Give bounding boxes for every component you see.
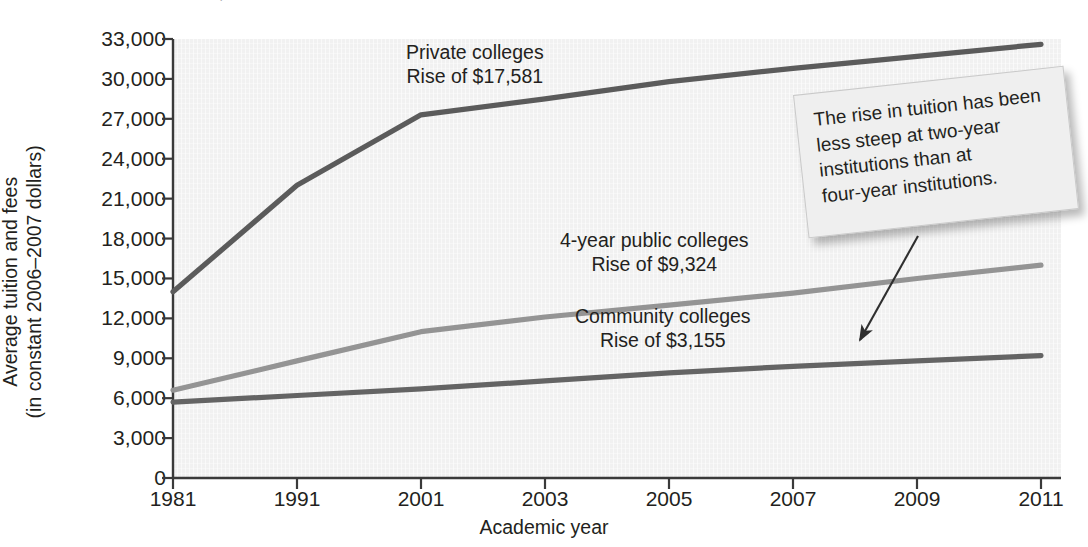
- x-axis-title: Academic year: [0, 516, 1088, 539]
- series-label-4-year-public-colleges-name: 4-year public colleges: [560, 228, 749, 252]
- x-axis-tick-label: 2007: [770, 487, 817, 511]
- series-label-private-colleges-rise: Rise of $17,581: [406, 64, 544, 88]
- series-label-private-colleges-name: Private colleges: [406, 40, 544, 64]
- x-axis-tick-label: 1991: [274, 487, 321, 511]
- x-axis-tick-label: 2009: [894, 487, 941, 511]
- x-axis-tick-label: 2001: [398, 487, 445, 511]
- callout-note: The rise in tuition has been less steep …: [793, 66, 1079, 239]
- x-axis-tick-label: 1981: [150, 487, 197, 511]
- x-axis-tick-label: 2005: [646, 487, 693, 511]
- series-label-community-colleges-rise: Rise of $3,155: [575, 328, 751, 352]
- series-label-private-colleges: Private colleges Rise of $17,581: [406, 40, 544, 88]
- series-label-community-colleges-name: Community colleges: [575, 304, 751, 328]
- series-label-4-year-public-colleges-rise: Rise of $9,324: [560, 252, 749, 276]
- callout-note-text: The rise in tuition has been less steep …: [812, 81, 1059, 209]
- series-label-4-year-public-colleges: 4-year public colleges Rise of $9,324: [560, 228, 749, 276]
- callout-arrow: [860, 236, 918, 340]
- series-label-community-colleges: Community colleges Rise of $3,155: [575, 304, 751, 352]
- y-axis-tick-marks: [162, 39, 173, 478]
- x-axis-tick-label: 2003: [522, 487, 569, 511]
- callout-arrow-line: [860, 236, 918, 340]
- x-axis-tick-label: 2011: [1018, 487, 1063, 511]
- series-line-community-colleges: [173, 356, 1041, 403]
